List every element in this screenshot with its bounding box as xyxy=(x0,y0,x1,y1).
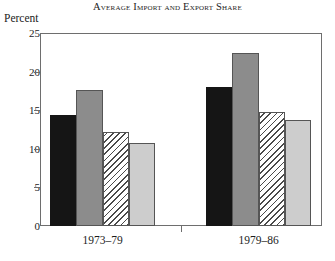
chart-container: Average Import and Export Share Percent … xyxy=(0,0,335,261)
bar xyxy=(285,120,311,226)
bar xyxy=(232,53,258,226)
x-axis-center-tick xyxy=(181,226,182,232)
y-axis-tick-label: 25 xyxy=(6,27,40,39)
y-axis-tick-mark xyxy=(34,72,40,73)
bar xyxy=(129,143,155,226)
bar xyxy=(76,90,102,226)
bar-series-layer xyxy=(41,34,321,226)
x-axis-tick-label: 1973–79 xyxy=(82,234,122,246)
x-axis-tick-label: 1979–86 xyxy=(238,234,278,246)
y-axis-tick-mark xyxy=(34,149,40,150)
chart-title: Average Import and Export Share xyxy=(0,1,335,12)
bar xyxy=(206,87,232,226)
y-axis-tick-label: 0 xyxy=(6,220,40,232)
bar xyxy=(103,132,129,226)
y-axis-unit-label: Percent xyxy=(4,12,38,24)
y-axis-tick-mark xyxy=(34,110,40,111)
bar xyxy=(50,115,76,226)
y-axis-tick-mark xyxy=(34,187,40,188)
bar xyxy=(259,112,285,226)
